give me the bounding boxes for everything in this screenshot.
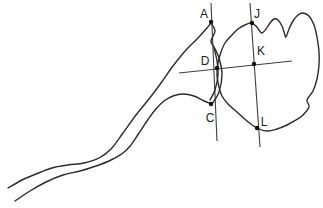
landmark-dot-A: [209, 20, 213, 24]
fossa-bone-outline: [217, 13, 319, 131]
landmark-dot-J: [250, 21, 254, 25]
landmark-label-L: L: [261, 115, 268, 129]
landmark-dot-L: [255, 126, 259, 130]
tracing-figure: AJDKCL: [0, 0, 323, 208]
landmark-label-C: C: [206, 111, 215, 125]
landmark-dot-C: [209, 102, 213, 106]
horizontal-line-DK: [179, 61, 292, 73]
landmark-label-K: K: [257, 44, 265, 58]
landmark-dot-K: [252, 62, 256, 66]
landmark-dot-D: [215, 66, 219, 70]
landmark-label-A: A: [200, 7, 208, 21]
condyle-ramus-outline: [8, 22, 222, 201]
landmark-label-D: D: [201, 54, 210, 68]
diagram-canvas: AJDKCL: [0, 0, 323, 208]
landmark-label-J: J: [254, 7, 260, 21]
